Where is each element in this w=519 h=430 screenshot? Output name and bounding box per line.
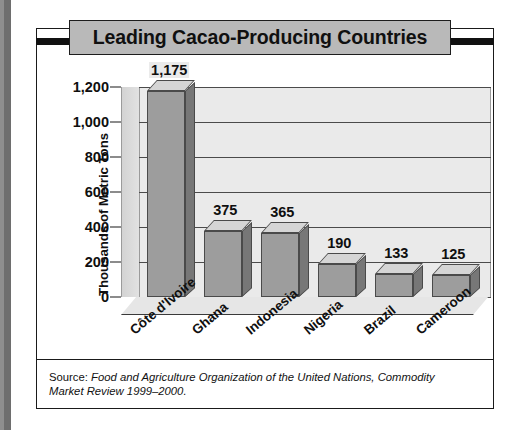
page-gutter-edge: [0, 0, 4, 430]
bar-value-label: 1,175: [149, 62, 189, 78]
bar-value-label: 125: [439, 246, 467, 262]
y-tick-label: 200: [85, 254, 109, 270]
bar-value-label: 133: [382, 245, 410, 261]
y-axis-tick-labels: 02004006008001,0001,200: [37, 79, 121, 324]
bar-value-label: 375: [211, 202, 239, 218]
bar-front-face: [147, 91, 185, 297]
chart-title: Leading Cacao-Producing Countries: [93, 26, 428, 49]
bar-side-face: [185, 82, 195, 297]
source-label: Source:: [49, 371, 88, 383]
bar: 190: [318, 264, 356, 297]
bar-value-label: 190: [325, 235, 353, 251]
bar-side-face: [242, 222, 252, 297]
bar: 133: [375, 274, 413, 297]
source-separator: [37, 359, 493, 360]
y-tick-label: 600: [85, 184, 109, 200]
banner-connector-right: [450, 38, 494, 45]
figure-page: Thousands of Metric Tons 02004006008001,…: [0, 0, 519, 430]
y-tick-mark: [110, 87, 121, 88]
y-tick-mark: [110, 227, 121, 228]
y-tick-mark: [110, 297, 121, 298]
bar-side-face: [299, 224, 309, 297]
title-banner: Leading Cacao-Producing Countries: [69, 20, 451, 55]
bar-front-face: [318, 264, 356, 297]
page-gutter: [0, 0, 11, 430]
y-tick-mark: [110, 192, 121, 193]
y-tick-label: 400: [85, 219, 109, 235]
y-tick-label: 800: [85, 149, 109, 165]
y-tick-mark: [110, 122, 121, 123]
y-tick-mark: [110, 157, 121, 158]
y-tick-label: 0: [101, 289, 109, 305]
source-citation: Food and Agriculture Organization of the…: [49, 371, 435, 397]
bar-value-label: 365: [268, 204, 296, 220]
bar: 1,175: [147, 91, 185, 297]
y-tick-mark: [110, 262, 121, 263]
y-tick-label: 1,000: [73, 114, 109, 130]
bar-front-face: [375, 274, 413, 297]
y-tick-label: 1,200: [73, 79, 109, 95]
bar-front-face: [204, 231, 242, 297]
figure-frame: Thousands of Metric Tons 02004006008001,…: [36, 28, 494, 409]
bar: 375: [204, 231, 242, 297]
source-note: Source: Food and Agriculture Organizatio…: [49, 370, 469, 398]
